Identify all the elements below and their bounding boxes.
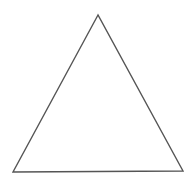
triangle-shape (13, 15, 183, 172)
diagram-canvas (0, 0, 192, 185)
